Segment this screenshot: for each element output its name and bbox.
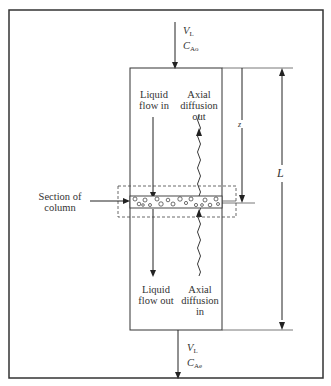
label-line: out	[192, 111, 205, 122]
label-line: flow in	[139, 100, 169, 111]
outlet-label: VL CAe	[187, 342, 202, 372]
label-line: Section of	[39, 191, 82, 202]
label-line: column	[44, 202, 76, 213]
L-dimension-label: L	[277, 168, 284, 179]
label-line: Liquid	[140, 89, 168, 100]
outlet-conc-sub: Ae	[194, 362, 202, 370]
inlet-flow-sub: L	[189, 30, 193, 38]
label-line: Axial	[188, 284, 211, 295]
liquid-flow-out-label: Liquid flow out	[136, 284, 176, 306]
z-dimension-label: z	[238, 119, 241, 130]
axial-diffusion-in-label: Axial diffusion in	[177, 284, 223, 317]
axial-diffusion-out-label: Axial diffusion out	[176, 89, 222, 122]
outlet-conc-symbol: C	[187, 357, 194, 368]
label-line: in	[196, 306, 204, 317]
label-line: diffusion	[181, 295, 219, 306]
outlet-flow-sub: L	[193, 347, 197, 355]
label-line: flow out	[138, 295, 173, 306]
label-line: diffusion	[180, 100, 218, 111]
label-line: Axial	[187, 89, 210, 100]
liquid-flow-in-label: Liquid flow in	[136, 89, 172, 111]
inlet-label: VL CAo	[183, 25, 199, 55]
section-of-column-label: Section of column	[30, 191, 90, 213]
label-line: Liquid	[142, 284, 170, 295]
inlet-conc-symbol: C	[183, 40, 190, 51]
inlet-conc-sub: Ao	[190, 45, 199, 53]
